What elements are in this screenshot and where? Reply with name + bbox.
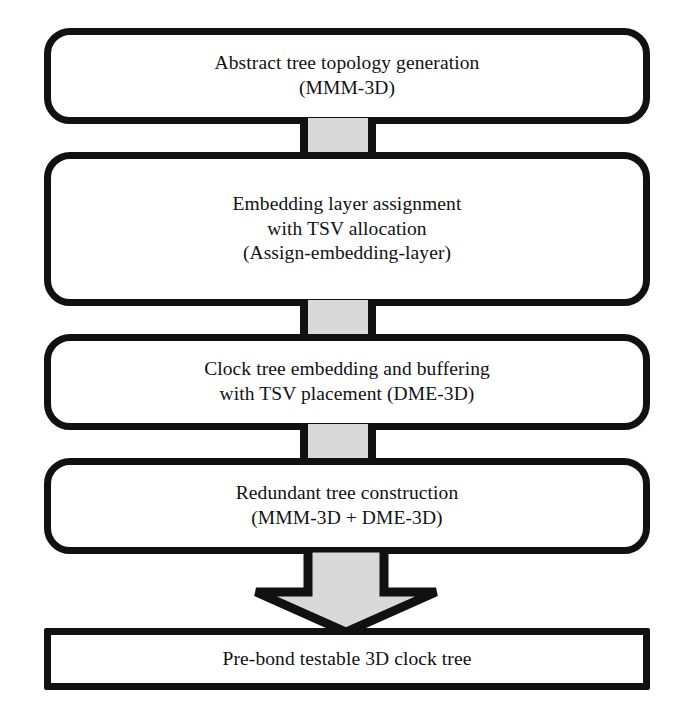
node-label: Pre-bond testable 3D clock tree xyxy=(213,647,482,672)
result-node-pre-bond-testable-3d-clock-tree: Pre-bond testable 3D clock tree xyxy=(44,628,650,690)
process-node-embedding-layer-assignment: Embedding layer assignment with TSV allo… xyxy=(44,152,650,306)
node-label: Embedding layer assignment with TSV allo… xyxy=(223,192,472,267)
process-node-redundant-tree-construction: Redundant tree construction (MMM-3D + DM… xyxy=(44,458,650,554)
node-label: Redundant tree construction (MMM-3D + DM… xyxy=(226,481,469,531)
node-label: Clock tree embedding and buffering with … xyxy=(194,357,500,407)
process-node-clock-tree-embedding-and-buffering: Clock tree embedding and buffering with … xyxy=(44,334,650,430)
process-node-abstract-tree-topology-generation: Abstract tree topology generation (MMM-3… xyxy=(44,28,650,124)
node-label: Abstract tree topology generation (MMM-3… xyxy=(205,51,490,101)
flowchart-diagram: Abstract tree topology generation (MMM-3… xyxy=(0,0,692,720)
arrow-down-icon xyxy=(246,548,446,634)
